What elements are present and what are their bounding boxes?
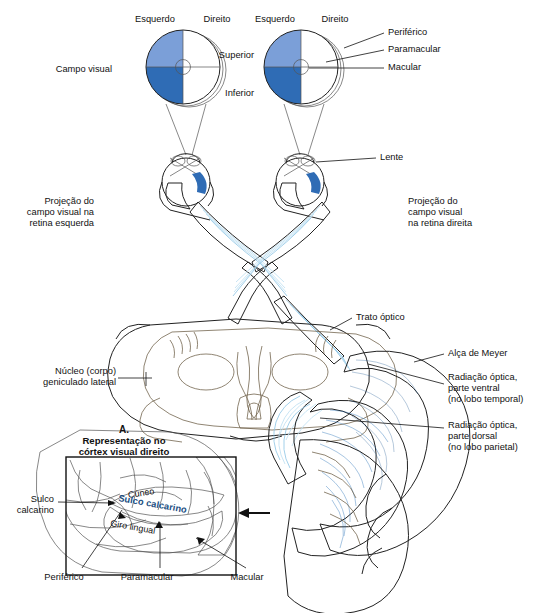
panel-title-line2: córtex visual direito <box>60 446 188 457</box>
lente-label: Lente <box>380 152 403 163</box>
nucleo-line2: geniculado lateral <box>6 377 116 388</box>
superior-label: Superior <box>180 50 254 61</box>
nerve-fibers <box>200 206 320 296</box>
radiacao-ventral-line2: parte ventral <box>448 383 500 394</box>
radiacao-dorsal-line2: parte dorsal <box>448 431 497 442</box>
lgn-leader <box>118 372 152 386</box>
right-leaders <box>320 354 444 428</box>
occipital-cortex-right <box>284 440 409 613</box>
visual-pathway-diagram: Campo visual Esquerdo Direito Esquerdo D… <box>0 0 546 613</box>
inferior-label: Inferior <box>186 88 254 99</box>
alca-meyer-label: Alça de Meyer <box>448 348 507 359</box>
projection-cones <box>166 104 324 155</box>
midbrain-section <box>108 319 397 442</box>
right-eye <box>273 154 327 220</box>
macular-top-label: Macular <box>388 62 421 73</box>
radiacao-dorsal-line1: Radiação óptica, <box>448 420 517 431</box>
nucleo-line1: Núcleo (corpo) <box>18 366 116 377</box>
projecao-esquerda-line2: campo visual na <box>2 207 94 218</box>
projecao-direita-line3: na retina direita <box>408 218 472 229</box>
esquerdo-left-label: Esquerdo <box>118 14 192 25</box>
optic-nerve-chiasm <box>190 202 330 324</box>
periferico-top-label: Periférico <box>388 27 427 38</box>
projecao-esquerda-line1: Projeção do <box>8 196 94 207</box>
campo-visual-label: Campo visual <box>18 64 112 75</box>
lens-leader <box>316 158 376 162</box>
pointer-arrow <box>238 508 270 518</box>
paramacular-bottom-label: Paramacular <box>110 572 184 583</box>
radiacao-ventral-line1: Radiação óptica, <box>448 372 517 383</box>
tract-leader <box>330 318 352 330</box>
projecao-direita-line1: Projeção do <box>408 196 458 207</box>
projecao-direita-line2: campo visual <box>408 207 462 218</box>
direito-right-label: Direito <box>306 14 364 25</box>
panel-title-line1: Representação no <box>60 435 188 446</box>
periferico-bottom-label: Periférico <box>34 572 94 583</box>
sulco-calcarino-line1: Sulco <box>0 494 54 505</box>
right-visual-field-circle <box>264 30 344 107</box>
paramacular-top-label: Paramacular <box>388 44 441 55</box>
macular-bottom-label: Macular <box>218 572 276 583</box>
radiacao-dorsal-line3: (no lobo parietal) <box>448 442 518 453</box>
radiacao-ventral-line3: (no lobo temporal) <box>448 394 523 405</box>
esquerdo-right-label: Esquerdo <box>238 14 312 25</box>
panel-letter: A. <box>104 424 144 435</box>
sulco-calcarino-line2: calcarino <box>0 505 54 516</box>
trato-optico-label: Trato óptico <box>356 312 405 323</box>
diagram-graphics <box>0 0 546 613</box>
projecao-esquerda-line3: retina esquerda <box>2 218 94 229</box>
